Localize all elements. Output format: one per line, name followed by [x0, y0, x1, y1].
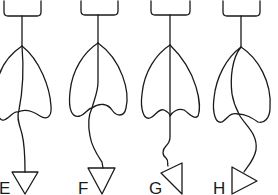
heart-outline-h — [213, 47, 270, 122]
label-g: G — [149, 179, 162, 195]
panel-h — [213, 1, 270, 194]
tip-triangle-e — [12, 172, 38, 194]
label-f: F — [78, 179, 88, 195]
tip-triangle-g — [161, 163, 182, 194]
bracket-e — [4, 1, 41, 16]
panel-g — [141, 1, 199, 194]
heart-outline-e — [0, 46, 51, 120]
tip-triangle-f — [88, 168, 115, 194]
diagram-svg: E F G H — [0, 0, 278, 195]
panel-e — [0, 1, 51, 194]
wire-h — [231, 47, 256, 172]
wire-e — [18, 46, 25, 172]
label-e: E — [0, 179, 10, 195]
wire-g — [163, 45, 170, 166]
bracket-h — [223, 1, 260, 16]
bracket-f — [81, 1, 118, 15]
bracket-g — [151, 1, 190, 15]
label-h: H — [213, 179, 225, 195]
panel-f — [69, 1, 126, 194]
diagram-canvas: E F G H — [0, 0, 278, 195]
